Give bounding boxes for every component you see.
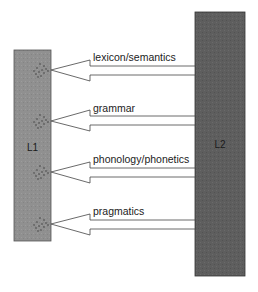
- arrow-label: lexicon/semantics: [93, 51, 176, 63]
- l2-label: L2: [214, 139, 226, 150]
- arrow-lexicon-semantics: lexicon/semantics: [33, 51, 195, 81]
- arrow-grammar: grammar: [33, 102, 195, 131]
- arrow-phonology-phonetics: phonology/phonetics: [33, 153, 195, 183]
- arrow-label: phonology/phonetics: [93, 153, 189, 165]
- arrow-pragmatics: pragmatics: [33, 205, 195, 235]
- l1-label: L1: [27, 142, 39, 153]
- arrow-label: grammar: [93, 102, 136, 114]
- l1-block: L1: [14, 50, 51, 241]
- l2-block: L2: [195, 12, 245, 276]
- arrow-label: pragmatics: [93, 205, 144, 217]
- transfer-diagram: L1 L2 lexicon/semantics grammar: [0, 0, 258, 292]
